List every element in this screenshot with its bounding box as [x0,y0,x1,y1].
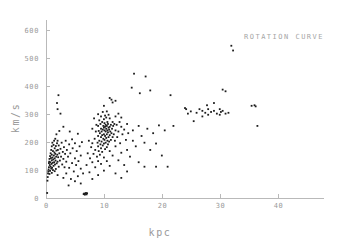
data-point [112,136,114,138]
data-point [50,149,52,151]
data-point [109,126,111,128]
data-point [228,112,230,114]
data-point [152,132,154,134]
data-point [91,142,93,144]
data-point [74,157,76,159]
data-point [53,140,55,142]
data-point [66,149,68,151]
data-point [62,151,64,153]
data-point [60,148,62,150]
data-point [232,50,234,52]
data-point [196,112,198,114]
x-tick-label-10: 10 [100,202,110,210]
data-point [109,165,111,167]
data-point [104,135,106,137]
data-point [49,164,51,166]
data-point [96,156,98,158]
data-point [109,117,111,119]
data-point [73,171,75,173]
data-point [99,154,101,156]
data-point [71,162,73,164]
data-point [51,145,53,147]
data-point [222,110,224,112]
data-point [118,159,120,161]
data-point [77,175,79,177]
data-point [131,87,133,89]
rotation-curve-figure: 0100200300400500600010203040 kpc km/s RO… [0,0,343,245]
data-point [110,139,112,141]
data-point [102,145,104,147]
data-point [112,155,114,157]
data-point [78,160,80,162]
data-point [88,140,90,142]
data-point [126,123,128,125]
data-point [67,156,69,158]
data-point [76,150,78,152]
data-point [87,152,89,154]
data-point [112,121,114,123]
data-point [55,145,57,147]
data-point [99,132,101,134]
data-point [103,133,105,135]
data-point [82,173,84,175]
data-point [207,108,209,110]
data-point [100,163,102,165]
data-point [108,114,110,116]
data-point [149,149,151,151]
data-point [144,166,146,168]
data-point [56,154,58,156]
data-point [116,124,118,126]
data-point [114,140,116,142]
data-point [70,178,72,180]
data-point [53,161,55,163]
data-point [108,141,110,143]
data-point [110,124,112,126]
data-point [62,158,64,160]
data-point [57,161,59,163]
data-point [107,131,109,133]
data-point [173,125,175,127]
data-point [101,134,103,136]
data-point [100,147,102,149]
data-point [105,137,107,139]
data-point [101,131,103,133]
data-point [185,108,187,110]
data-point [68,185,70,187]
data-point [49,170,51,172]
data-point [68,167,70,169]
data-point [145,76,147,78]
data-point [206,104,208,106]
data-point [58,94,60,96]
data-point [54,147,56,149]
y-tick-label-400: 400 [25,83,39,91]
data-point [51,172,53,174]
data-point [144,142,146,144]
data-point [257,125,259,127]
data-point [101,121,103,123]
data-point [102,111,104,113]
data-point [65,140,67,142]
data-point [167,166,169,168]
data-point [61,142,63,144]
data-point [115,116,117,118]
data-point [51,167,53,169]
data-point [115,129,117,131]
data-point [129,156,131,158]
data-point [222,89,224,91]
data-point [97,135,99,137]
data-point [69,152,71,154]
y-tick-label-200: 200 [25,139,39,147]
data-point [98,140,100,142]
data-point [71,138,73,140]
data-point [122,133,124,135]
data-point [48,166,50,168]
data-point [77,133,79,135]
data-point [91,128,93,130]
data-point [65,173,67,175]
data-point [95,124,97,126]
y-axis-label: km/s [10,103,21,133]
data-point [123,164,125,166]
data-point [69,131,71,133]
data-point [49,173,51,175]
data-point [104,122,106,124]
